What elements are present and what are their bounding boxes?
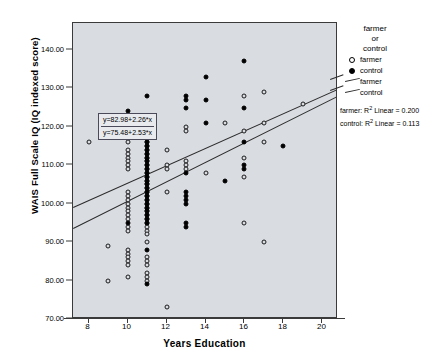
data-point-farmer	[125, 263, 130, 268]
data-point-control	[145, 94, 150, 99]
data-point-farmer	[242, 128, 247, 133]
data-point-farmer	[164, 147, 169, 152]
regression-line-farmer	[73, 88, 337, 207]
y-tick-label: 110.00	[22, 160, 64, 169]
data-point-farmer	[242, 155, 247, 160]
data-point-farmer	[125, 274, 130, 279]
r-squared-annotations: farmer: R2 Linear = 0.200control: R2 Lin…	[340, 103, 437, 130]
y-tick-label: 140.00	[22, 44, 64, 53]
x-tick-label: 20	[309, 322, 333, 331]
open-circle-icon	[344, 57, 360, 63]
equation-farmer: y=82.98+2.26*x	[101, 115, 154, 125]
y-tick-label: 130.00	[22, 83, 64, 92]
y-tick-label: 80.00	[22, 275, 64, 284]
x-tick-label: 10	[115, 322, 139, 331]
data-point-control	[242, 105, 247, 110]
y-tick-label: 100.00	[22, 198, 64, 207]
chart-screenshot: WAIS Full Scale IQ (IQ indexed score) 70…	[0, 0, 437, 363]
data-point-control	[125, 220, 130, 225]
legend-label: farmer	[360, 55, 382, 64]
legend: farmer or control farmercontrolfarmercon…	[342, 24, 437, 130]
x-tick-label: 18	[270, 322, 294, 331]
y-tick-label: 90.00	[22, 237, 64, 246]
r-squared-label: control: R2 Linear = 0.113	[340, 116, 437, 129]
data-point-farmer	[300, 101, 305, 106]
legend-entry-control-line[interactable]: control	[344, 87, 437, 98]
trend-line-icon	[345, 78, 360, 86]
y-tick-label: 120.00	[22, 121, 64, 130]
legend-label: control	[360, 66, 383, 75]
data-point-farmer	[145, 232, 150, 237]
x-tick-label: 8	[76, 322, 100, 331]
data-point-farmer	[261, 120, 266, 125]
data-point-farmer	[164, 305, 169, 310]
plot-area	[72, 22, 337, 318]
x-tick-label: 14	[193, 322, 217, 331]
legend-title-line2: or	[346, 34, 404, 44]
circle-solid-icon	[349, 68, 355, 74]
legend-line-icon	[344, 89, 360, 97]
data-point-farmer	[222, 120, 227, 125]
data-point-farmer	[242, 220, 247, 225]
trend-line-icon	[345, 89, 360, 97]
legend-entries: farmercontrolfarmercontrol	[342, 54, 437, 98]
data-point-farmer	[86, 140, 91, 145]
data-point-control	[242, 140, 247, 145]
data-point-farmer	[261, 90, 266, 95]
data-point-control	[222, 178, 227, 183]
legend-entry-farmer-line[interactable]: farmer	[344, 76, 437, 87]
data-point-control	[203, 97, 208, 102]
data-point-farmer	[106, 243, 111, 248]
data-point-control	[242, 59, 247, 64]
data-point-control	[145, 282, 150, 287]
legend-entry-farmer-marker[interactable]: farmer	[344, 54, 437, 65]
data-point-control	[281, 144, 286, 149]
data-point-control	[145, 220, 150, 225]
y-tick-label: 70.00	[22, 314, 64, 323]
regression-equation-box: y=82.98+2.26*x y=75.48+2.53*x	[98, 113, 157, 140]
legend-title-line3: control	[346, 44, 404, 54]
legend-line-icon	[344, 78, 360, 86]
data-point-farmer	[125, 167, 130, 172]
r-squared-label: farmer: R2 Linear = 0.200	[340, 103, 437, 116]
legend-label: farmer	[360, 77, 382, 86]
data-point-control	[184, 201, 189, 206]
data-point-farmer	[106, 278, 111, 283]
legend-entry-control-marker[interactable]: control	[344, 65, 437, 76]
data-point-control	[184, 224, 189, 229]
data-point-control	[203, 74, 208, 79]
circle-outline-icon	[349, 57, 355, 63]
data-point-control	[184, 105, 189, 110]
filled-circle-icon	[344, 68, 360, 74]
data-point-control	[145, 247, 150, 252]
data-point-control	[184, 97, 189, 102]
data-point-farmer	[261, 140, 266, 145]
data-point-farmer	[242, 94, 247, 99]
x-tick-label: 16	[231, 322, 255, 331]
data-point-farmer	[261, 240, 266, 245]
data-point-farmer	[203, 170, 208, 175]
data-point-farmer	[125, 228, 130, 233]
equation-control: y=75.48+2.53*x	[101, 126, 154, 138]
data-point-control	[184, 170, 189, 175]
data-point-farmer	[184, 128, 189, 133]
data-point-control	[242, 167, 247, 172]
data-point-farmer	[125, 140, 130, 145]
x-tick-label: 12	[154, 322, 178, 331]
data-point-control	[203, 120, 208, 125]
data-point-farmer	[145, 240, 150, 245]
x-axis-title: Years Education	[72, 338, 337, 349]
legend-label: control	[360, 88, 383, 97]
data-point-farmer	[164, 167, 169, 172]
legend-title: farmer or control	[346, 24, 404, 54]
data-point-farmer	[164, 190, 169, 195]
data-point-farmer	[242, 174, 247, 179]
legend-title-line1: farmer	[346, 24, 404, 34]
data-point-farmer	[145, 263, 150, 268]
